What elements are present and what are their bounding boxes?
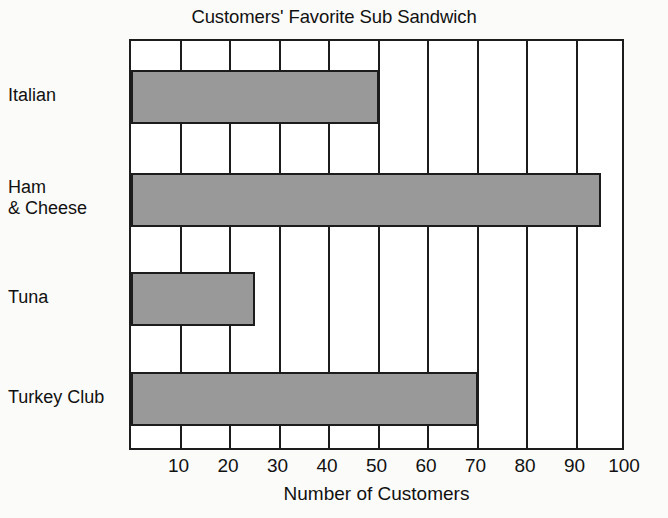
x-axis-title: Number of Customers [129,483,624,505]
bar-chart: Customers' Favorite Sub Sandwich Italian… [0,0,668,518]
chart-title: Customers' Favorite Sub Sandwich [0,6,668,28]
bars-layer [131,41,622,448]
bar [131,272,255,326]
category-label: Italian [8,85,126,106]
bar [131,173,601,227]
x-tick-label: 100 [594,455,654,477]
plot-area [129,39,624,450]
bar [131,70,379,124]
bar [131,372,478,426]
category-label: Ham & Cheese [8,177,126,219]
category-label: Turkey Club [8,387,126,408]
category-label: Tuna [8,287,126,308]
